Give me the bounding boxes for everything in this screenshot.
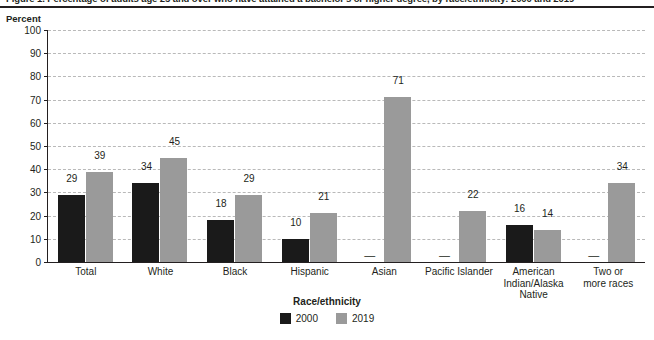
- bar-not-available-mark: —: [431, 251, 458, 259]
- y-axis-tick-label: 50: [30, 141, 41, 152]
- bar[interactable]: [534, 230, 561, 262]
- legend-title: Race/ethnicity: [0, 296, 654, 307]
- bar-group: 1021Hispanic: [282, 30, 337, 262]
- bar-value-label: 34: [602, 161, 642, 172]
- x-axis-line: [47, 262, 645, 263]
- chart-legend: Race/ethnicity 20002019: [0, 296, 654, 324]
- bar[interactable]: [160, 158, 187, 262]
- bar-value-label: 22: [453, 189, 493, 200]
- y-axis-tick-label: 80: [30, 71, 41, 82]
- bar-value-label: 21: [304, 191, 344, 202]
- bar[interactable]: [310, 213, 337, 262]
- bar-group: 1614AmericanIndian/AlaskaNative: [506, 30, 561, 262]
- bar[interactable]: [58, 195, 85, 262]
- bar-not-available-mark: —: [580, 251, 607, 259]
- y-axis-tick-label: 20: [30, 210, 41, 221]
- bar-groups: 2939Total3445White1829Black1021Hispanic—…: [48, 30, 645, 262]
- legend-swatch: [336, 313, 347, 324]
- bar-value-label: 29: [229, 173, 269, 184]
- bar-value-label: 71: [378, 75, 418, 86]
- legend-items: 20002019: [0, 313, 654, 324]
- bar-value-label: 14: [528, 208, 568, 219]
- bar[interactable]: [459, 211, 486, 262]
- y-axis-tick-label: 70: [30, 94, 41, 105]
- bar-group: —34Two ormore races: [580, 30, 635, 262]
- y-axis-tick-label: 40: [30, 164, 41, 175]
- bar-not-available-mark: —: [356, 251, 383, 259]
- bar[interactable]: [384, 97, 411, 262]
- figure-title: Figure 1. Percentage of adults age 25 an…: [6, 0, 654, 4]
- x-axis-category-label: Two ormore races: [556, 266, 654, 289]
- bar[interactable]: [132, 183, 159, 262]
- bar[interactable]: [608, 183, 635, 262]
- legend-item[interactable]: 2019: [336, 313, 374, 324]
- bar-value-label: 39: [80, 150, 120, 161]
- bar-group: —22Pacific Islander: [431, 30, 486, 262]
- y-axis-tick-label: 90: [30, 48, 41, 59]
- bar[interactable]: [86, 172, 113, 262]
- bar-group: 2939Total: [58, 30, 113, 262]
- legend-label: 2000: [296, 313, 318, 324]
- legend-label: 2019: [352, 313, 374, 324]
- bar[interactable]: [282, 239, 309, 262]
- bar-group: 3445White: [132, 30, 187, 262]
- legend-swatch: [280, 313, 291, 324]
- bar-value-label: 45: [154, 136, 194, 147]
- legend-item[interactable]: 2000: [280, 313, 318, 324]
- y-axis-unit-label: Percent: [6, 13, 41, 24]
- header-divider: [0, 6, 654, 8]
- chart-plot-area: 0102030405060708090100 2939Total3445Whit…: [48, 30, 645, 262]
- y-axis-tick-mark: [44, 262, 48, 263]
- bar[interactable]: [235, 195, 262, 262]
- y-axis-tick-label: 30: [30, 187, 41, 198]
- y-axis-tick-label: 60: [30, 117, 41, 128]
- bar-group: 1829Black: [207, 30, 262, 262]
- bar[interactable]: [207, 220, 234, 262]
- y-axis-tick-label: 100: [24, 25, 41, 36]
- bar-group: —71Asian: [356, 30, 411, 262]
- bar[interactable]: [506, 225, 533, 262]
- y-axis-tick-label: 10: [30, 233, 41, 244]
